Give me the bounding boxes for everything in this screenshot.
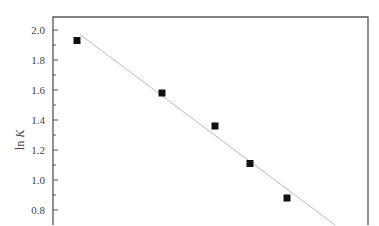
y-axis-title: ln K	[13, 129, 27, 150]
data-point-square	[247, 160, 254, 167]
y-tick-label: 1.4	[31, 114, 45, 126]
data-point-square	[212, 123, 219, 130]
y-tick-label: 1.2	[31, 144, 45, 156]
y-tick-label: 1.6	[31, 84, 45, 96]
y-axis-tick-labels: 0.81.01.21.41.61.82.0	[31, 24, 45, 216]
data-point-square	[159, 90, 166, 97]
y-tick-label: 0.8	[31, 204, 45, 216]
y-tick-label: 1.8	[31, 54, 45, 66]
y-axis-title-prefix: ln	[13, 138, 27, 150]
plot-frame	[53, 17, 368, 225]
fit-line	[80, 35, 335, 226]
data-point-square	[74, 37, 81, 44]
axes-border	[53, 17, 368, 225]
y-axis-title-variable: K	[13, 129, 27, 139]
data-points	[74, 37, 291, 202]
linear-fit-line	[80, 35, 335, 226]
chart: 0.81.01.21.41.61.82.0 ln K	[0, 0, 379, 225]
y-axis-ticks	[53, 30, 58, 210]
y-tick-label: 1.0	[31, 174, 45, 186]
y-tick-label: 2.0	[31, 24, 45, 36]
data-point-square	[284, 195, 291, 202]
